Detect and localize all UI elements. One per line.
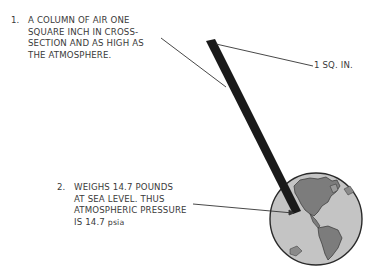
note-2-number: 2. — [57, 182, 66, 194]
note-2-line-2: AT SEA LEVEL. THUS — [74, 194, 187, 206]
note-1-line-4: THE ATMOSPHERE. — [28, 50, 144, 62]
note-1-line-3: SECTION AND AS HIGH AS — [28, 38, 144, 50]
callout-one-square-inch: 1 SQ. IN. — [314, 60, 353, 72]
air-column — [206, 39, 301, 214]
callout-label: 1 SQ. IN. — [314, 60, 353, 70]
note-2-line-4: IS 14.7 psia — [74, 217, 187, 229]
note-2-unit: psia — [108, 218, 125, 227]
note-2-line-4-prefix: IS 14.7 — [74, 217, 108, 227]
note-1-line-2: SQUARE INCH IN CROSS- — [28, 27, 144, 39]
note-1-number: 1. — [11, 15, 20, 27]
note-2-line-3: ATMOSPHERIC PRESSURE — [74, 205, 187, 217]
note-1-line-1: A COLUMN OF AIR ONE — [28, 15, 144, 27]
note-2-line-1: WEIGHS 14.7 POUNDS — [74, 182, 187, 194]
